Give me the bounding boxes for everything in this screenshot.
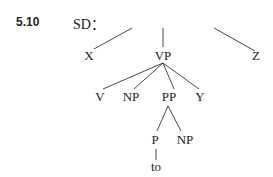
node-z: Z <box>252 48 260 63</box>
node-v: V <box>95 89 105 104</box>
syntax-tree: X VP Z V NP PP Y P NP to <box>0 0 273 177</box>
node-vp: VP <box>155 48 172 63</box>
node-np: NP <box>123 89 140 104</box>
node-to: to <box>151 159 161 174</box>
node-y: Y <box>195 89 205 104</box>
node-p: P <box>151 132 158 147</box>
node-x: X <box>84 48 94 63</box>
node-np-2: NP <box>177 132 194 147</box>
node-pp: PP <box>162 89 176 104</box>
